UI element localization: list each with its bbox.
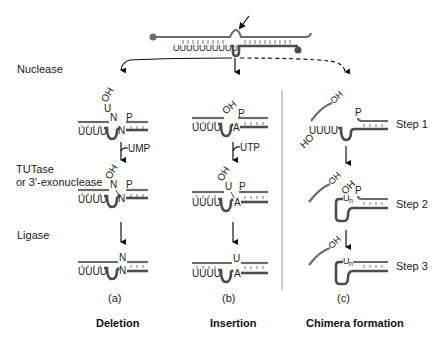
step-1-label: Step 1 xyxy=(396,118,428,130)
title-insertion: Insertion xyxy=(210,317,257,329)
panel-chimera: OH HO UUUU P Step 1 OH OH P U n Step 2 O… xyxy=(298,89,428,329)
p-label: P xyxy=(239,181,246,192)
cofactor-ump: UMP xyxy=(128,143,151,154)
arrow-to-chimera-icon xyxy=(240,58,345,72)
a-label: A xyxy=(234,268,241,279)
label-exonuclease: or 3'-exonuclease xyxy=(16,176,103,188)
n-top-label: N xyxy=(119,252,126,263)
panel-deletion: OH U N P UUUU N UMP OH N P U xyxy=(78,85,151,329)
u-tail: UUUU xyxy=(309,125,338,136)
label-ligase: Ligase xyxy=(17,229,49,241)
caption-c: (c) xyxy=(337,292,350,304)
label-tutase: TUTase xyxy=(16,163,54,175)
n-top-label: N xyxy=(110,179,117,190)
oh-label: OH xyxy=(220,98,239,116)
step-2-label: Step 2 xyxy=(396,198,428,210)
u-label: U xyxy=(233,253,240,264)
branch-arrows xyxy=(121,58,345,72)
u-tail: UUUU xyxy=(78,266,107,277)
n-bottom-label: N xyxy=(119,265,126,276)
p-label: P xyxy=(355,107,362,118)
un-subscript: n xyxy=(349,197,353,204)
n-top-label: N xyxy=(110,112,117,123)
a-label: A xyxy=(234,197,241,208)
guide-3prime-end-icon xyxy=(295,47,302,54)
u-tail: UUUU xyxy=(192,268,221,279)
un-subscript: n xyxy=(349,260,353,267)
u-tail: UUUU xyxy=(78,126,107,137)
n-bottom-label: N xyxy=(118,125,125,136)
panel-insertion: OH P UUUU A UTP OH U P UUUU xyxy=(192,98,268,329)
u-tail: UUUU xyxy=(192,197,221,208)
caption-a: (a) xyxy=(108,292,121,304)
arrow-to-deletion-icon xyxy=(121,58,232,70)
caption-b: (b) xyxy=(222,292,235,304)
title-chimera-formation: Chimera formation xyxy=(306,317,404,329)
top-u-tail: UUUUUUUUUU xyxy=(173,43,238,53)
p-label: P xyxy=(126,179,133,190)
cleavage-site-arrow-icon xyxy=(240,16,249,28)
u-label: U xyxy=(225,181,232,192)
oh-label: OH xyxy=(99,85,116,103)
u-tail: UUUU xyxy=(192,122,221,133)
step-3-label: Step 3 xyxy=(396,260,428,272)
a-label: A xyxy=(233,122,240,133)
n-bottom-label: N xyxy=(118,193,125,204)
u-tail: UUUU xyxy=(78,194,107,205)
top-duplex: UUUUUUUUUU xyxy=(150,16,312,56)
cofactor-utp: UTP xyxy=(240,142,260,153)
title-deletion: Deletion xyxy=(96,317,140,329)
p-label: P xyxy=(355,185,362,196)
editing-diagram: UUUUUUUUUU Nuclease TUTase or 3'-exonucl… xyxy=(0,0,440,339)
label-nuclease: Nuclease xyxy=(17,63,63,75)
